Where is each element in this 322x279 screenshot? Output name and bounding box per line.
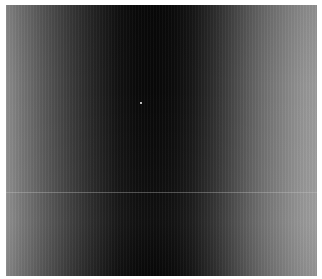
faint-horizontal-line — [6, 192, 317, 193]
vertical-shading — [6, 5, 317, 276]
grayscale-image — [6, 5, 317, 276]
bright-speck — [140, 102, 142, 104]
